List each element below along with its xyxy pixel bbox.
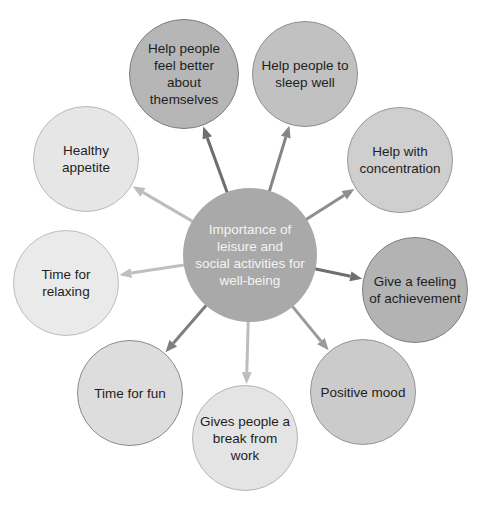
node-label: Help people feel better about themselves	[136, 40, 232, 108]
arrow-line-concentration	[305, 195, 344, 220]
center-node: Importance ofleisure andsocial activitie…	[183, 188, 317, 322]
node-feel-better: Help people feel better about themselves	[129, 19, 239, 129]
arrowhead-break-from-work	[242, 372, 252, 384]
arrowhead-time-for-relaxing	[119, 268, 132, 278]
arrowhead-sleep-well	[281, 126, 291, 139]
node-break-from-work: Gives people a break from work	[192, 385, 298, 491]
arrow-line-achievement	[314, 268, 351, 276]
arrow-line-healthy-appetite	[143, 192, 194, 222]
node-time-for-fun: Time for fun	[77, 340, 183, 446]
node-label: Gives people a break from work	[199, 413, 291, 464]
node-label: Healthy appetite	[40, 142, 132, 176]
arrowhead-achievement	[349, 271, 362, 281]
node-time-for-relaxing: Time for relaxing	[13, 230, 119, 336]
node-achievement: Give a feeling of achievement	[362, 237, 468, 343]
node-sleep-well: Help people to sleep well	[252, 21, 358, 127]
node-label: Help with concentration	[354, 143, 446, 177]
node-concentration: Help with concentration	[347, 107, 453, 213]
arrow-line-sleep-well	[269, 137, 286, 193]
node-label: Give a feeling of achievement	[369, 273, 461, 307]
arrow-line-positive-mood	[291, 305, 321, 341]
node-healthy-appetite: Healthy appetite	[33, 106, 139, 212]
node-label: Time for fun	[94, 385, 166, 402]
arrow-line-break-from-work	[247, 320, 248, 372]
center-node-label: Importance ofleisure andsocial activitie…	[195, 221, 305, 289]
node-label: Positive mood	[321, 384, 406, 401]
arrowhead-feel-better	[203, 127, 212, 140]
arrow-line-time-for-fun	[173, 304, 207, 343]
node-positive-mood: Positive mood	[310, 339, 416, 445]
node-label: Time for relaxing	[20, 266, 112, 300]
node-label: Help people to sleep well	[259, 57, 351, 91]
arrow-line-feel-better	[207, 138, 227, 194]
arrow-line-time-for-relaxing	[131, 265, 185, 273]
